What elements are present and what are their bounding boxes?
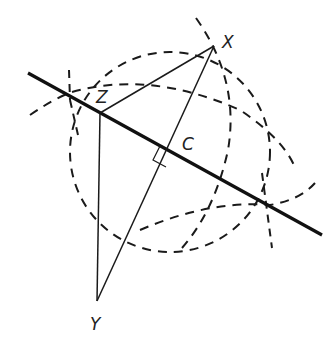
segment-xy [97, 46, 214, 301]
geometry-construction: X Z C Y [0, 0, 333, 339]
tick-left-down [70, 100, 78, 135]
tick-right-vertical [262, 173, 272, 248]
segment-zx [100, 46, 214, 113]
label-y: Y [90, 314, 102, 334]
construction-arc-right [140, 183, 315, 230]
label-c: C [182, 134, 194, 154]
perpendicular-line [28, 73, 322, 235]
label-z: Z [95, 87, 108, 107]
label-x: X [221, 32, 234, 52]
segment-zy [97, 113, 100, 301]
